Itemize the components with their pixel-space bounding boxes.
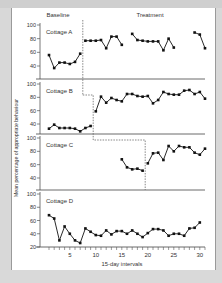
y-tick-label: 40 (30, 175, 36, 181)
data-point (193, 226, 196, 229)
data-point (167, 234, 170, 237)
data-point (115, 99, 118, 102)
data-point (162, 159, 165, 162)
y-tick-label: 40 (30, 63, 36, 69)
data-point (162, 91, 165, 94)
data-point (193, 31, 196, 34)
phase-change-line-bc (83, 95, 145, 190)
y-tick-label: 40 (30, 231, 36, 237)
data-point (63, 127, 66, 130)
phase-label-treatment: Treatment (136, 12, 163, 18)
data-point (110, 233, 113, 236)
panel-cottage-c: 406080100Cottage C (27, 135, 206, 190)
data-point (136, 232, 139, 235)
data-point (63, 225, 66, 228)
data-point (173, 150, 176, 153)
panel-title: Cottage B (46, 88, 73, 94)
data-point (152, 40, 155, 43)
data-point (53, 123, 56, 126)
data-point (95, 234, 98, 237)
data-point (178, 145, 181, 148)
y-tick-label: 100 (27, 191, 36, 197)
data-point (199, 33, 202, 36)
data-line (96, 90, 205, 111)
data-point (167, 37, 170, 40)
data-point (193, 93, 196, 96)
x-tick-label: 5 (68, 252, 72, 258)
data-point (74, 127, 77, 130)
data-point (141, 39, 144, 42)
y-tick-label: 60 (30, 162, 36, 168)
data-point (188, 146, 191, 149)
x-tick-label: 25 (170, 252, 177, 258)
x-tick-label: 20 (144, 252, 151, 258)
data-point (105, 229, 108, 232)
y-tick-label: 60 (30, 49, 36, 55)
data-point (115, 35, 118, 38)
y-tick-label: 100 (27, 135, 36, 141)
y-tick-label: 80 (30, 94, 36, 100)
data-point (188, 89, 191, 92)
x-tick-label: 30 (196, 252, 203, 258)
x-axis-label: 15-day intervals (102, 261, 143, 267)
panel-cottage-a: 406080100Cottage A (27, 22, 206, 79)
data-point (74, 239, 77, 242)
data-point (84, 227, 87, 230)
data-point (105, 101, 108, 104)
panel-cottage-d: 20406080100Cottage D (27, 191, 205, 250)
data-point (131, 93, 134, 96)
data-point (58, 127, 61, 130)
x-tick-label: 15 (118, 252, 125, 258)
panel-title: Cottage D (46, 198, 74, 204)
data-point (121, 100, 124, 103)
data-point (162, 229, 165, 232)
data-point (53, 67, 56, 70)
data-point (110, 35, 113, 38)
data-point (63, 61, 66, 64)
data-point (100, 95, 103, 98)
panel-cottage-b: 406080100Cottage B (27, 81, 206, 134)
data-point (69, 232, 72, 235)
data-point (147, 95, 150, 98)
data-point (100, 234, 103, 237)
data-line (148, 146, 205, 163)
phase-label-baseline: Baseline (46, 12, 70, 18)
data-point (95, 110, 98, 113)
data-point (89, 125, 92, 128)
panel-title: Cottage A (46, 29, 72, 35)
data-point (183, 89, 186, 92)
data-point (152, 102, 155, 105)
data-point (84, 127, 87, 130)
y-axis-label: Mean percentage of appropriate behaviour (13, 99, 19, 197)
data-point (121, 44, 124, 47)
data-point (199, 91, 202, 94)
data-point (173, 46, 176, 49)
data-point (199, 221, 202, 224)
data-point (95, 39, 98, 42)
data-point (58, 61, 61, 64)
panel-title: Cottage C (46, 142, 74, 148)
data-point (193, 151, 196, 154)
data-point (126, 166, 129, 169)
data-point (157, 228, 160, 231)
data-point (115, 230, 118, 233)
data-point (141, 95, 144, 98)
data-point (105, 47, 108, 50)
data-point (136, 39, 139, 42)
data-point (204, 147, 207, 150)
data-point (131, 168, 134, 171)
data-point (79, 130, 82, 133)
data-point (121, 230, 124, 233)
x-axis: 5101520253015-day intervals (49, 247, 205, 267)
data-point (157, 99, 160, 102)
data-point (79, 52, 82, 55)
data-point (167, 145, 170, 148)
data-point (131, 33, 134, 36)
data-point (178, 93, 181, 96)
y-tick-label: 40 (30, 121, 36, 127)
y-tick-label: 80 (30, 36, 36, 42)
data-point (136, 95, 139, 98)
data-point (48, 214, 51, 217)
data-point (183, 146, 186, 149)
data-point (58, 239, 61, 242)
